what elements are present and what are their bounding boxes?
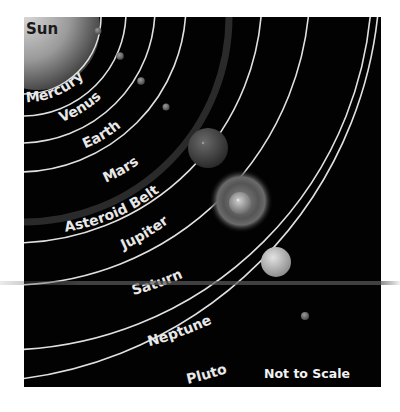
label-pluto: Pluto <box>185 360 229 387</box>
label-jupiter: Jupiter <box>117 212 171 253</box>
planet-highlight <box>237 199 239 201</box>
planet-venus <box>116 52 124 60</box>
sun-label: Sun <box>26 20 58 38</box>
planet-mercury <box>95 28 102 35</box>
scale-note: Not to Scale <box>264 366 350 381</box>
planet-jupiter <box>229 192 251 214</box>
planet-saturn <box>261 247 291 277</box>
planet-mars <box>163 104 170 111</box>
label-earth: Earth <box>80 117 124 152</box>
planet-large-red <box>188 128 228 168</box>
scan-band <box>0 281 400 285</box>
solar-system-diagram: Mercury Venus Earth Mars Asteroid Belt J… <box>24 17 381 387</box>
planet-pluto <box>301 312 309 320</box>
label-mars: Mars <box>100 153 141 185</box>
planet-highlight <box>202 142 204 144</box>
planet-earth <box>137 77 145 85</box>
